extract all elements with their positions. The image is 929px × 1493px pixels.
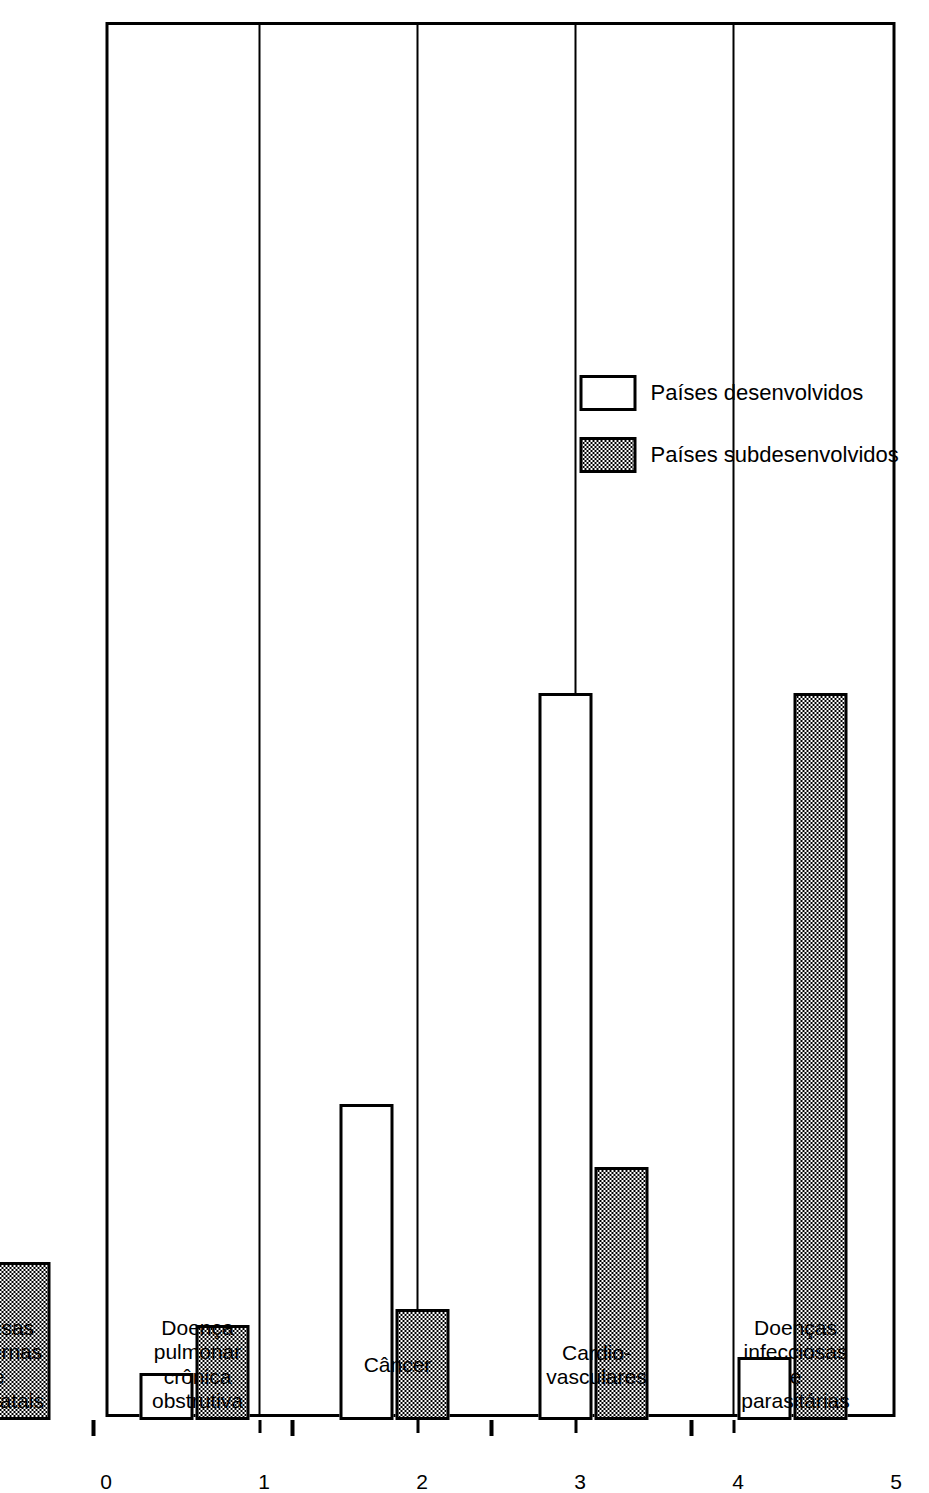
category-label-0: Doenças infecciosas e parasitárias (740, 1316, 851, 1413)
gridline-4 (732, 25, 734, 1414)
value-tick-4 (732, 1420, 735, 1433)
bar-0-1 (538, 693, 592, 1420)
value-tick-1 (258, 1420, 261, 1433)
legend-label-0: Países desenvolvidos (650, 382, 863, 404)
legend-swatch-stippled (579, 437, 636, 473)
value-axis-label-4: 4 (732, 1471, 744, 1492)
value-axis-label-3: 3 (574, 1471, 586, 1492)
value-axis-label-1: 1 (258, 1471, 270, 1492)
plot-area: Países desenvolvidosPaíses subdesenvolvi… (105, 22, 895, 1417)
category-label-4: Causas maternas e perinatais (0, 1316, 44, 1413)
category-separator-tick (91, 1420, 95, 1436)
legend-swatch-hollow (579, 375, 636, 411)
category-label-3: Doença pulmonar crônica obstrutiva (152, 1316, 243, 1413)
category-separator-tick (290, 1420, 294, 1436)
value-axis-label-5: 5 (890, 1471, 902, 1492)
value-axis-label-0: 0 (100, 1471, 112, 1492)
bar-1-0 (793, 693, 847, 1420)
value-axis-label-2: 2 (416, 1471, 428, 1492)
legend-item-0: Países desenvolvidos (579, 375, 863, 411)
category-separator-tick (489, 1420, 493, 1436)
category-label-2: Câncer (363, 1353, 431, 1377)
value-tick-2 (416, 1420, 419, 1433)
category-label-1: Cardio- vasculares (546, 1341, 646, 1390)
chart-legend: Países desenvolvidosPaíses subdesenvolvi… (579, 375, 847, 543)
legend-label-1: Países subdesenvolvidos (650, 444, 898, 466)
category-separator-tick (689, 1420, 693, 1436)
value-tick-3 (574, 1420, 577, 1433)
gridline-1 (258, 25, 260, 1414)
legend-item-1: Países subdesenvolvidos (579, 437, 898, 473)
gridline-2 (416, 25, 418, 1414)
